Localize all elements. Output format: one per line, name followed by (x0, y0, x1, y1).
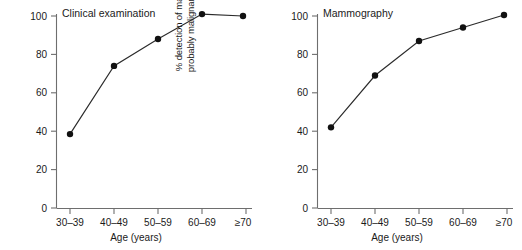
data-line-right (331, 15, 504, 127)
y-axis-label-right-line2: probably malignant lessions (185, 0, 197, 120)
data-point (328, 124, 334, 130)
y-tick-label-60-left: 60 (36, 87, 48, 98)
data-point (416, 38, 422, 44)
y-tick-label-0-left: 0 (41, 203, 47, 214)
y-axis-label-right: % detection of malignant or probably mal… (173, 0, 203, 120)
x-tick-label-4-right: 60–69 (449, 217, 477, 228)
y-tick-label-40-left: 40 (36, 126, 48, 137)
data-point (240, 13, 246, 19)
data-point (67, 131, 73, 137)
x-tick-label-5-left: ≥70 (235, 217, 252, 228)
chart-panel-clinical-examination: % detection of malignant or probably mal… (0, 0, 261, 250)
x-tick-label-4-left: 60–69 (188, 217, 216, 228)
y-axis-label-right-line1: % detection of malignant or (173, 0, 185, 120)
y-tick-label-0-right: 0 (302, 203, 308, 214)
x-tick-label-5-right: ≥70 (496, 217, 513, 228)
data-point (501, 12, 507, 18)
x-tick-label-3-right: 50–59 (405, 217, 433, 228)
x-axis-label-right: Age (years) (337, 232, 457, 243)
y-tick-label-60-right: 60 (297, 87, 309, 98)
data-point (155, 36, 161, 42)
x-tick-label-1-left: 30–39 (56, 217, 84, 228)
x-tick-label-3-left: 50–59 (144, 217, 172, 228)
y-tick-label-100-right: 100 (291, 11, 308, 22)
y-tick-label-20-right: 20 (297, 164, 309, 175)
plot-area-right: 100 80 60 40 20 0 30–39 40–49 50–59 60–6… (261, 0, 522, 250)
plot-area-left: 100 80 60 40 20 0 30–39 40–49 50–59 60–6… (0, 0, 261, 250)
data-points-right (328, 12, 507, 131)
data-points-left (67, 11, 246, 137)
data-point (372, 72, 378, 78)
y-tick-label-80-left: 80 (36, 49, 48, 60)
y-tick-label-20-left: 20 (36, 164, 48, 175)
x-tick-label-1-right: 30–39 (317, 217, 345, 228)
x-tick-label-2-left: 40–49 (100, 217, 128, 228)
y-tick-label-100-left: 100 (30, 11, 47, 22)
y-tick-label-40-right: 40 (297, 126, 309, 137)
figure-container: % detection of malignant or probably mal… (0, 0, 522, 250)
data-line-left (70, 14, 243, 134)
y-tick-label-80-right: 80 (297, 49, 309, 60)
x-tick-label-2-right: 40–49 (361, 217, 389, 228)
data-point (460, 24, 466, 30)
data-point (111, 63, 117, 69)
chart-panel-mammography: % detection of malignant or probably mal… (261, 0, 522, 250)
x-axis-label-left: Age (years) (76, 232, 196, 243)
